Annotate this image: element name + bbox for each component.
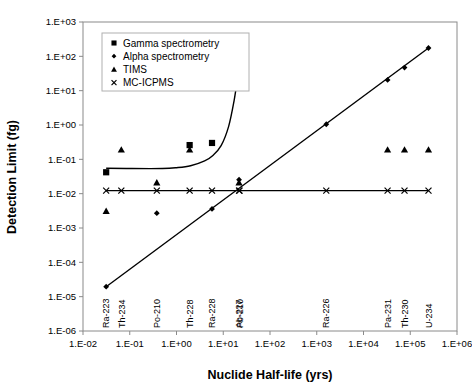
legend-label: MC-ICPMS	[123, 77, 174, 88]
nuclide-label: U-234	[424, 303, 434, 328]
data-point	[209, 140, 215, 146]
nuclide-label: Ra-228	[207, 298, 217, 328]
y-tick-label: 1.E-04	[48, 257, 76, 268]
x-tick-label: 1.E-02	[69, 338, 97, 349]
x-tick-label: 1.E+04	[348, 338, 378, 349]
y-tick-label: 1.E+01	[46, 85, 76, 96]
chart-legend: Gamma spectrometryAlpha spectrometryTIMS…	[102, 33, 249, 91]
x-axis-tick-labels: 1.E-021.E-011.E+001.E+011.E+021.E+031.E+…	[69, 338, 472, 349]
nuclide-label: Th-228	[185, 299, 195, 328]
y-tick-label: 1.E+00	[46, 119, 76, 130]
detection-limit-chart: 1.E+031.E+021.E+011.E+001.E-011.E-021.E-…	[0, 0, 472, 386]
data-point	[103, 169, 109, 175]
nuclide-label: Th-234	[117, 299, 127, 328]
x-tick-label: 1.E+05	[395, 338, 425, 349]
nuclide-label: Ra-223	[101, 298, 111, 328]
y-tick-label: 1.E-02	[48, 188, 76, 199]
y-tick-label: 1.E-01	[48, 154, 76, 165]
y-axis-title: Detection Limit (fg)	[5, 120, 19, 234]
y-tick-label: 1.E-06	[48, 325, 76, 336]
y-tick-label: 1.E-05	[48, 291, 76, 302]
nuclide-label: Pa-231	[383, 299, 393, 328]
legend-label: Gamma spectrometry	[123, 38, 219, 49]
x-tick-label: 1.E+01	[208, 338, 238, 349]
y-tick-label: 1.E+03	[46, 16, 76, 27]
nuclide-label: Pb-210	[235, 299, 245, 328]
x-tick-label: 1.E+03	[302, 338, 332, 349]
nuclide-label: Th-230	[400, 299, 410, 328]
x-tick-label: 1.E+02	[255, 338, 285, 349]
nuclide-label: Po-210	[152, 299, 162, 328]
y-tick-label: 1.E+02	[46, 51, 76, 62]
chart-container: 1.E+031.E+021.E+011.E+001.E-011.E-021.E-…	[0, 0, 472, 386]
nuclide-label: Ra-226	[321, 298, 331, 328]
legend-label: TIMS	[123, 64, 147, 75]
x-tick-label: 1.E+06	[442, 338, 472, 349]
legend-marker-square	[111, 40, 116, 45]
legend-label: Alpha spectrometry	[123, 51, 209, 62]
x-tick-label: 1.E-01	[116, 338, 144, 349]
y-tick-label: 1.E-03	[48, 222, 76, 233]
x-tick-label: 1.E+00	[161, 338, 191, 349]
x-axis-title: Nuclide Half-life (yrs)	[207, 368, 332, 382]
